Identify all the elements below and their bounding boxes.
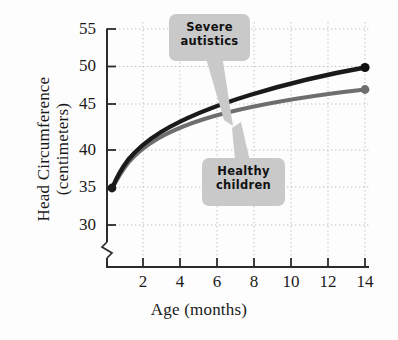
x-axis-ticks xyxy=(143,258,365,267)
callout-box-healthy-children xyxy=(202,158,285,206)
y-axis-title-line1: Head Circumference xyxy=(34,34,53,264)
callout-healthy-children xyxy=(202,122,285,206)
series-endpoint-severe-autistics xyxy=(360,63,369,72)
x-tick-label-8: 8 xyxy=(239,272,269,292)
series-endpoint-healthy-children xyxy=(361,85,370,94)
y-axis-ticks xyxy=(107,29,116,225)
series-startpoint-marker xyxy=(108,184,117,193)
callout-box-severe-autistics xyxy=(169,14,250,61)
x-axis-title: Age (months) xyxy=(0,300,398,319)
y-axis-title: Head Circumference (centimeters) xyxy=(34,34,72,264)
x-tick-label-2: 2 xyxy=(128,272,158,292)
x-tick-label-4: 4 xyxy=(165,272,195,292)
x-tick-label-14: 14 xyxy=(350,272,380,292)
x-tick-label-10: 10 xyxy=(276,272,306,292)
x-tick-label-6: 6 xyxy=(202,272,232,292)
y-axis-title-line2: (centimeters) xyxy=(53,34,72,264)
chart-figure: 55 50 45 40 35 30 2 4 6 8 10 12 14 Sever… xyxy=(0,0,398,340)
y-axis-break-icon xyxy=(102,242,112,258)
x-tick-label-12: 12 xyxy=(313,272,343,292)
